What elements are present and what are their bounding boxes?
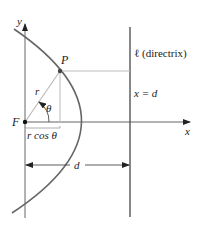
projection-bracket bbox=[25, 126, 60, 128]
x-axis-label: x bbox=[184, 125, 190, 137]
parabola-curve bbox=[12, 29, 82, 213]
directrix-equation: x = d bbox=[133, 87, 158, 99]
focus-label: F bbox=[11, 115, 20, 129]
radius-label: r bbox=[35, 85, 40, 97]
polar-parabola-diagram: y x ℓ (directrix) x = d r θ r cos θ d P … bbox=[0, 0, 208, 232]
radius-line bbox=[25, 71, 60, 122]
directrix-label: ℓ (directrix) bbox=[134, 47, 187, 60]
y-axis-label: y bbox=[16, 15, 22, 27]
point-p-label: P bbox=[60, 53, 69, 67]
distance-label: d bbox=[74, 159, 80, 171]
point-p bbox=[58, 69, 62, 73]
angle-label: θ bbox=[46, 102, 52, 114]
focus-point bbox=[23, 120, 27, 124]
projection-label: r cos θ bbox=[27, 129, 57, 141]
